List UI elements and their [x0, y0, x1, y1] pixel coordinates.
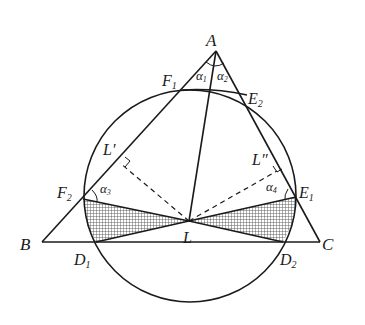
label-b: B — [20, 235, 31, 254]
label-e1: E1 — [298, 184, 314, 203]
label-alpha3: α3 — [100, 181, 111, 197]
label-f1: F1 — [161, 72, 177, 91]
label-l: L — [182, 229, 192, 246]
label-alpha1: α1 — [196, 68, 207, 84]
angle-arc-alpha3 — [92, 190, 97, 202]
shaded-region-right — [189, 197, 296, 242]
label-c: C — [322, 235, 334, 254]
geometry-figure: A B C L F1 E2 F2 E1 D1 D2 L′ L″ α1 α2 α3… — [0, 0, 365, 325]
label-l-double-prime: L″ — [251, 151, 268, 168]
label-e2: E2 — [247, 90, 263, 109]
label-d1: D1 — [73, 251, 91, 270]
right-angle-marker-lprime — [125, 157, 130, 167]
label-f2: F2 — [56, 184, 72, 203]
label-d2: D2 — [279, 251, 297, 270]
label-a: A — [205, 31, 217, 50]
shaded-region-left — [83, 199, 189, 242]
circle — [84, 90, 296, 302]
label-l-prime: L′ — [102, 141, 116, 158]
label-alpha4: α4 — [266, 179, 277, 195]
